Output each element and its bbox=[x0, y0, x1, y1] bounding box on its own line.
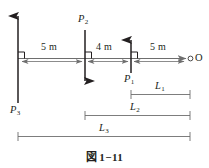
span-label-l1-subscript: 1 bbox=[161, 85, 165, 93]
segment-label-4m: 4 m bbox=[96, 42, 112, 52]
span-label-l2: L2 bbox=[130, 102, 139, 113]
figure-container: 5 m 4 m 5 m O P2 P1 P3 L1 L2 L3 図1−11 bbox=[0, 0, 209, 168]
segment-label-5m-right: 5 m bbox=[150, 42, 166, 52]
force-label-p3: P3 bbox=[10, 105, 20, 116]
force-label-p1-letter: P bbox=[124, 73, 130, 84]
figure-drawing bbox=[0, 0, 209, 168]
force-arrow-p3 bbox=[18, 16, 25, 103]
span-label-l2-letter: L bbox=[130, 101, 136, 112]
force-label-p2: P2 bbox=[78, 14, 88, 25]
force-label-p3-letter: P bbox=[10, 104, 16, 115]
origin-label-o: O bbox=[195, 53, 203, 64]
span-label-l1: L1 bbox=[155, 81, 164, 92]
span-label-l3-subscript: 3 bbox=[105, 127, 109, 135]
span-label-l2-subscript: 2 bbox=[136, 106, 140, 114]
force-label-p1-subscript: 1 bbox=[131, 78, 135, 86]
caption-marker: 図 bbox=[86, 151, 98, 163]
segment-label-5m-left: 5 m bbox=[41, 42, 57, 52]
main-axis-group bbox=[18, 56, 193, 61]
force-arrow-p1 bbox=[131, 40, 138, 73]
force-label-p2-letter: P bbox=[78, 13, 84, 24]
span-label-l1-letter: L bbox=[155, 80, 161, 91]
force-label-p3-subscript: 3 bbox=[17, 109, 21, 117]
force-label-p2-subscript: 2 bbox=[85, 18, 89, 26]
force-label-p1: P1 bbox=[124, 74, 134, 85]
figure-caption: 図1−11 bbox=[0, 148, 209, 164]
span-label-l3-letter: L bbox=[99, 122, 105, 133]
force-arrow-p2 bbox=[85, 30, 92, 81]
caption-number: 1−11 bbox=[99, 151, 123, 163]
span-label-l3: L3 bbox=[99, 123, 108, 134]
